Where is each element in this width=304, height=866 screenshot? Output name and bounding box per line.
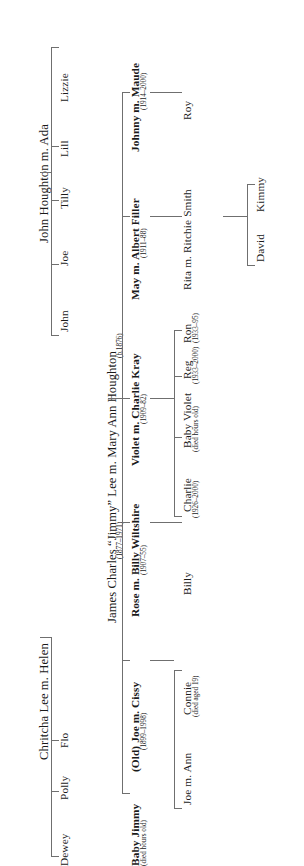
tick-joe-houghton [51, 264, 59, 265]
parent-stem-joe-cissy [150, 660, 174, 661]
person-joe-ann: Joe m. Ann [182, 753, 193, 805]
person-joe-houghton: Joe [59, 251, 70, 266]
parent-stem-may-rita [150, 216, 182, 217]
dates-charlie: (1926–2000) [193, 481, 200, 518]
sibling-bar-houghton [51, 47, 52, 336]
tick-ron [174, 330, 182, 331]
sibling-bar-lee [51, 637, 52, 856]
couple-chritcha-lee-helen: Chritcha Lee m. Helen [38, 643, 51, 760]
couple-jimmy-lee-mary-ann-houghton: James Charles “Jimmy” Lee m. Mary Ann Ho… [106, 351, 119, 623]
dates-jimmy-lee: (1877–1971) [117, 522, 124, 559]
dates-connie: (died aged 19) [193, 675, 200, 717]
tick-baby-violet [174, 437, 182, 438]
person-flo: Flo [59, 733, 70, 748]
person-dewey: Dewey [59, 834, 70, 866]
tick-dewey [51, 856, 59, 857]
tick-david [247, 265, 255, 266]
person-billy: Billy [182, 572, 193, 595]
tick-john [51, 335, 59, 336]
person-kimmy: Kimmy [255, 177, 266, 212]
dates-may: (1911–88) [141, 228, 148, 258]
person-david: David [255, 234, 266, 262]
dates-baby-violet: (died hours old) [193, 406, 200, 452]
sibling-bar-joe-children [174, 670, 175, 809]
dates-old-joe: (1899–1998) [141, 713, 148, 750]
sibling-bar-violet-children [174, 330, 175, 516]
parent-stem-houghton [40, 172, 51, 173]
tick-charlie [174, 516, 182, 517]
tick-connie [174, 670, 182, 671]
tick-kimmy [247, 184, 255, 185]
tick-rose [122, 522, 130, 523]
person-polly: Polly [59, 776, 70, 800]
tick-violet [122, 398, 130, 399]
person-lizzie: Lizzie [59, 73, 70, 102]
parent-stem-rose-billy [150, 522, 182, 523]
tick-tilly [51, 200, 59, 201]
tick-may [122, 216, 130, 217]
person-roy: Roy [182, 101, 193, 120]
tick-lill [51, 146, 59, 147]
dates-reg: (1933–2000) [193, 347, 200, 384]
tick-polly [51, 791, 59, 792]
tick-reg [174, 376, 182, 377]
tick-joe-ann [174, 808, 182, 809]
dates-baby-jimmy: (died hours old) [141, 820, 148, 866]
tick-baby-jimmy [122, 793, 130, 794]
tick-lizzie [51, 47, 59, 48]
tick-flo [51, 740, 59, 741]
dates-ron: (1933–95) [193, 313, 200, 343]
sibling-bar-gen3 [122, 92, 123, 794]
person-john: John [59, 310, 70, 332]
person-lill: Lill [59, 140, 70, 157]
sibling-bar-rita-children [247, 184, 248, 266]
person-tilly: Tilly [59, 187, 70, 209]
parent-stem-violet-charlie [150, 398, 174, 399]
tick-old-joe [122, 660, 130, 661]
dates-rose: (1907–55) [141, 545, 148, 575]
parent-stem-johnny-roy [150, 92, 182, 93]
dates-johnny: (1914–2000) [141, 73, 148, 110]
parent-stem-rita [223, 216, 247, 217]
dates-violet: (1909–82) [141, 394, 148, 424]
person-rita-ritchie-smith: Rita m. Ritchie Smith [182, 189, 193, 290]
parent-stem-lee [40, 637, 51, 638]
tick-johnny [122, 92, 130, 93]
family-tree-diagram: Chritcha Lee m. Helen John Houghton m. A… [0, 0, 304, 866]
dates-mary-ann-houghton: (b.1876) [117, 333, 124, 358]
couple-john-houghton-ada: John Houghton m. Ada [38, 124, 51, 243]
